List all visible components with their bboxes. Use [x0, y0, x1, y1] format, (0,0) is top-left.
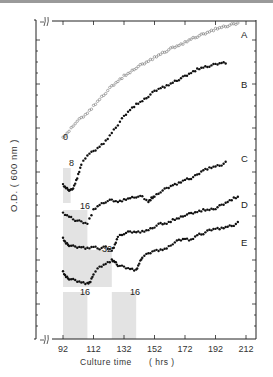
data-point [216, 206, 218, 208]
data-point [212, 63, 214, 65]
data-point [107, 138, 109, 140]
data-point [237, 221, 239, 223]
data-point [206, 208, 208, 210]
data-point [115, 261, 117, 263]
data-point [208, 166, 210, 168]
data-point [151, 91, 153, 93]
shaded-region [63, 292, 87, 339]
data-point [233, 225, 235, 227]
data-point [76, 120, 78, 122]
x-tick-label: 212 [238, 344, 253, 354]
data-point [62, 270, 64, 272]
data-point [200, 170, 202, 172]
series-label-e: E [241, 237, 247, 248]
data-point [129, 268, 131, 270]
data-point [135, 67, 137, 69]
data-point [121, 117, 123, 119]
data-point [80, 164, 82, 166]
data-point [157, 192, 159, 194]
data-point [133, 231, 135, 233]
data-point [105, 263, 107, 265]
data-point [180, 181, 182, 183]
data-point [98, 98, 100, 100]
data-point [163, 86, 165, 88]
data-point [68, 130, 70, 132]
x-tick-label: 172 [177, 344, 192, 354]
data-point [86, 112, 88, 114]
data-point [149, 93, 151, 95]
annotation-ann-c: 16 [80, 201, 90, 211]
data-point [64, 240, 66, 242]
data-point [218, 165, 220, 167]
data-point [170, 244, 172, 246]
data-point [176, 217, 178, 219]
data-point [123, 233, 125, 235]
series-label-a: A [241, 29, 248, 40]
data-point [129, 109, 131, 111]
data-point [74, 220, 76, 222]
data-point [198, 68, 200, 70]
data-point [84, 248, 86, 250]
data-point [91, 276, 93, 278]
data-point [109, 261, 111, 263]
data-point [172, 243, 174, 245]
data-point [227, 201, 229, 203]
series-label-d: D [241, 199, 248, 210]
data-point [113, 128, 115, 130]
data-point [147, 96, 149, 98]
data-point [180, 77, 182, 79]
data-point [111, 198, 113, 200]
data-point [200, 210, 202, 212]
y-axis-label: O.D. ( 600 nm ) [8, 121, 19, 231]
data-point [96, 147, 98, 149]
data-point [74, 182, 76, 184]
data-point [192, 238, 194, 240]
shaded-region [112, 292, 136, 339]
data-point [98, 204, 100, 206]
data-point [94, 245, 96, 247]
data-point [174, 183, 176, 185]
data-point [66, 214, 68, 216]
data-point [127, 197, 129, 199]
data-point [102, 143, 104, 145]
data-point [206, 168, 208, 170]
data-point [224, 62, 226, 64]
data-point [214, 208, 216, 210]
data-point [174, 241, 176, 243]
annotation-ann-e1: 16 [80, 287, 90, 297]
data-point [198, 173, 200, 175]
data-point [216, 63, 218, 65]
data-point [98, 248, 100, 250]
data-point [76, 281, 78, 283]
data-point [168, 187, 170, 189]
data-point [86, 223, 88, 225]
data-point [74, 123, 76, 125]
data-point [125, 199, 127, 201]
data-point [82, 281, 84, 283]
data-point [62, 183, 64, 185]
data-point [68, 245, 70, 247]
data-point [82, 222, 84, 224]
data-point [155, 249, 157, 251]
data-point [137, 103, 139, 105]
data-point [131, 268, 133, 270]
data-point [159, 248, 161, 250]
data-point [141, 257, 143, 259]
data-point [220, 164, 222, 166]
data-point [210, 167, 212, 169]
data-point [115, 242, 117, 244]
data-point [123, 198, 125, 200]
data-point [176, 183, 178, 185]
axis-break-icon [40, 17, 48, 344]
data-point [161, 189, 163, 191]
chart-canvas: 92112132152172192212 ABCDE 0816321616 [0, 0, 273, 377]
data-point [184, 215, 186, 217]
data-point [216, 227, 218, 229]
data-point [76, 219, 78, 221]
data-point [117, 236, 119, 238]
data-point [190, 178, 192, 180]
series-label-b: B [241, 79, 247, 90]
data-point [200, 233, 202, 235]
annotation-ann-a: 0 [63, 132, 68, 142]
data-point [94, 270, 96, 272]
